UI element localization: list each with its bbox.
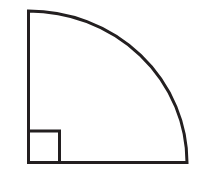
figure-background bbox=[0, 0, 202, 173]
geometry-figure-canvas bbox=[0, 0, 202, 173]
geometry-figure-svg bbox=[0, 0, 202, 173]
